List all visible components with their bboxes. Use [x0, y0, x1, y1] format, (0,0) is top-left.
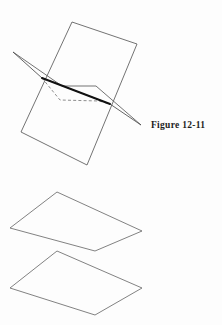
figure-12-12-drawing	[0, 170, 222, 325]
horizontal-plane-front-edge	[13, 52, 141, 125]
vertical-plane-outline	[21, 22, 137, 165]
figure-12-11-caption: Figure 12-11	[151, 120, 205, 130]
lower-parallel-plane-outline	[10, 251, 142, 315]
figure-12-11-drawing	[0, 0, 222, 170]
figure-12-11-container: Figure 12-11	[0, 0, 222, 170]
upper-parallel-plane-outline	[10, 192, 142, 251]
figure-12-12-container: Figure 12-12	[0, 170, 222, 325]
horizontal-plane-back-edge	[13, 52, 141, 125]
figure-page: Figure 12-11 Figure 12-12	[0, 0, 222, 325]
